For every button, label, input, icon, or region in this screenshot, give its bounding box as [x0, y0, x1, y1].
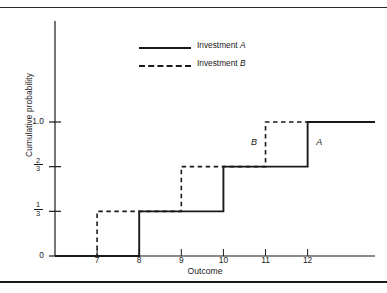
x-axis-ticks [97, 249, 308, 256]
figure-container: Cumulative probability Outcome 789101112… [0, 0, 387, 293]
chart-plot-area [0, 0, 387, 293]
x-tick-label: 7 [90, 255, 104, 265]
legend-swatch-solid-line [139, 47, 191, 49]
axes [55, 21, 375, 256]
curve-label-b: B [251, 137, 257, 147]
curve-label-a: A [316, 137, 322, 147]
legend-label-investment-b: Investment B [197, 58, 245, 68]
fraction-numerator: 1 [34, 201, 43, 208]
y-tick-label: 0 [18, 250, 44, 260]
series-line-b [55, 122, 375, 256]
y-tick-label: 1.0 [18, 116, 44, 126]
chart-series-layer [55, 122, 375, 256]
legend-swatch-dashed-line [139, 65, 191, 67]
y-tick-label: 13 [18, 201, 44, 217]
x-tick-label: 11 [259, 255, 273, 265]
y-tick-label: 23 [18, 157, 44, 173]
series-line-a [55, 122, 375, 256]
x-tick-label: 12 [301, 255, 315, 265]
fraction-denominator: 3 [34, 209, 43, 217]
fraction-numerator: 2 [34, 157, 43, 164]
x-tick-label: 9 [174, 255, 188, 265]
x-tick-label: 10 [216, 255, 230, 265]
x-tick-label: 8 [132, 255, 146, 265]
legend-label-investment-a: Investment A [197, 40, 245, 50]
fraction-denominator: 3 [34, 164, 43, 172]
x-axis-title: Outcome [160, 266, 250, 276]
chart-svg [0, 0, 387, 293]
